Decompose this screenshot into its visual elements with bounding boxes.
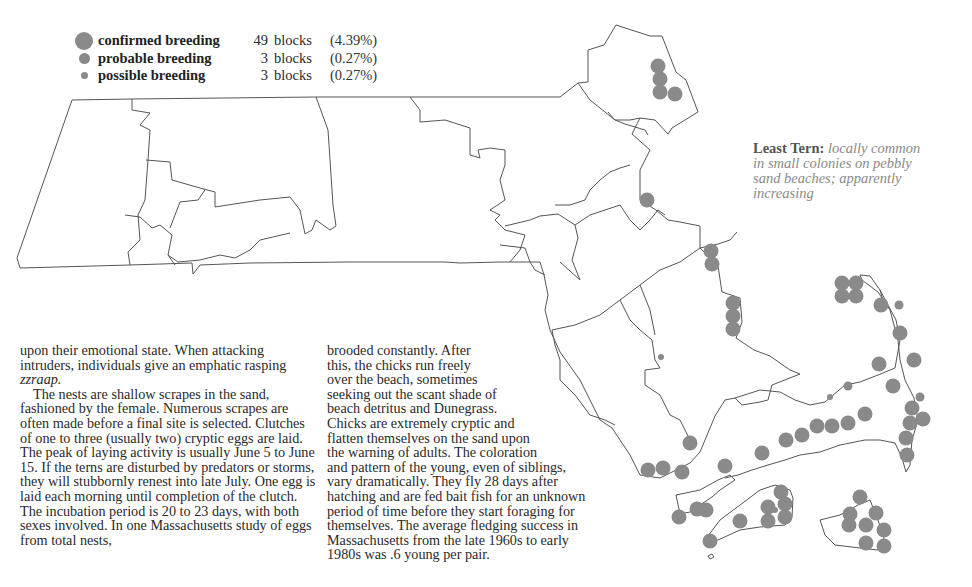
confirmed-dot-icon (726, 309, 741, 324)
confirmed-dot-icon (778, 510, 793, 525)
text-line: hatching and are fed bait fish for an un… (327, 489, 627, 504)
confirmed-dot-icon (841, 416, 856, 431)
call-notation: zzraap. (20, 371, 61, 387)
confirmed-dot-icon (849, 289, 864, 304)
confirmed-dot-icon (859, 536, 874, 551)
confirmed-dot-icon (843, 507, 858, 522)
text-line: this, the chicks run freely (327, 358, 627, 373)
confirmed-dot-icon (726, 296, 741, 311)
text-line: vary dramatically. They fly 28 days afte… (327, 474, 627, 489)
confirmed-dot-icon (893, 326, 908, 341)
text-line: 1980s was .6 young per pair. (327, 547, 627, 562)
confirmed-dot-icon (810, 419, 825, 434)
possible-dot-icon (658, 354, 664, 360)
confirmed-dot-icon (656, 461, 671, 476)
text-line: beach detritus and Dunegrass. (327, 401, 627, 416)
confirmed-dot-icon (651, 59, 666, 74)
text-line: period of time before they start foragin… (327, 504, 627, 519)
confirmed-dot-icon (704, 244, 719, 259)
confirmed-dot-icon (703, 534, 718, 549)
possible-dot-icon (772, 507, 778, 513)
confirmed-dot-icon (869, 506, 884, 521)
confirmed-dot-icon (849, 276, 864, 291)
confirmed-dot-icon (877, 523, 892, 538)
confirmed-dot-icon (795, 428, 810, 443)
confirmed-dot-icon (835, 289, 850, 304)
paragraph-call: upon their emotional state. When attacki… (20, 343, 320, 387)
confirmed-dot-icon (900, 448, 915, 463)
confirmed-dot-icon (640, 193, 655, 208)
confirmed-dot-icon (899, 431, 914, 446)
confirmed-dot-icon (705, 257, 720, 272)
text-column-middle: brooded constantly. After this, the chic… (327, 343, 627, 562)
paragraph-nesting: The nests are shallow scrapes in the san… (20, 387, 320, 548)
confirmed-dot-icon (903, 416, 918, 431)
confirmed-dot-icon (718, 459, 733, 474)
text-line: Chicks are extremely cryptic and (327, 416, 627, 431)
text-line: seeking out the scant shade of (327, 387, 627, 402)
confirmed-dot-icon (859, 518, 874, 533)
text-column-left: upon their emotional state. When attacki… (20, 343, 320, 547)
confirmed-dot-icon (755, 446, 770, 461)
confirmed-dot-icon (668, 87, 683, 102)
text-line: the warning of adults. The coloration (327, 445, 627, 460)
confirmed-dot-icon (886, 379, 901, 394)
text-line: themselves. The average fledging success… (327, 518, 627, 533)
paragraph-text: upon their emotional state. When attacki… (20, 342, 286, 373)
confirmed-dot-icon (675, 465, 690, 480)
text-line: brooded constantly. After (327, 343, 627, 358)
confirmed-dot-icon (733, 514, 748, 529)
species-name: Least Tern: (753, 140, 824, 156)
confirmed-dot-icon (683, 436, 698, 451)
text-line: Massachusetts from the late 1960s to ear… (327, 533, 627, 548)
confirmed-dot-icon (672, 510, 687, 525)
confirmed-dot-icon (779, 433, 794, 448)
confirmed-dot-icon (653, 72, 668, 87)
confirmed-dot-icon (874, 298, 889, 313)
text-line: and pattern of the young, even of siblin… (327, 460, 627, 475)
probable-dot-icon (916, 393, 925, 402)
confirmed-dot-icon (699, 503, 714, 518)
confirmed-dot-icon (778, 497, 793, 512)
confirmed-dot-icon (916, 412, 931, 427)
text-line: over the beach, sometimes (327, 372, 627, 387)
confirmed-breeding-dots (640, 59, 931, 554)
confirmed-dot-icon (641, 463, 656, 478)
text-line: flatten themselves on the sand upon (327, 431, 627, 446)
probable-breeding-dots (844, 301, 925, 402)
confirmed-dot-icon (653, 85, 668, 100)
confirmed-dot-icon (761, 514, 776, 529)
confirmed-dot-icon (858, 407, 873, 422)
confirmed-dot-icon (835, 276, 850, 291)
confirmed-dot-icon (853, 490, 868, 505)
species-summary: Least Tern: locally common in small colo… (753, 141, 923, 201)
confirmed-dot-icon (726, 322, 741, 337)
confirmed-dot-icon (872, 357, 887, 372)
confirmed-dot-icon (877, 539, 892, 554)
probable-dot-icon (895, 301, 904, 310)
confirmed-dot-icon (907, 353, 922, 368)
confirmed-dot-icon (905, 401, 920, 416)
probable-dot-icon (844, 382, 853, 391)
confirmed-dot-icon (825, 419, 840, 434)
possible-dot-icon (827, 394, 833, 400)
